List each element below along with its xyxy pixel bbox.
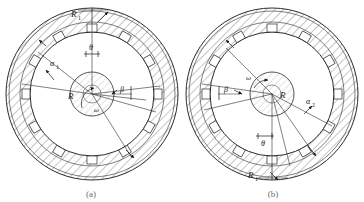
label-hub-radius-a: R bbox=[67, 91, 74, 101]
figure-container: R 1 θ α 1 R ω bbox=[0, 0, 364, 202]
label-outer-radius-sub-b: 1 bbox=[255, 176, 258, 182]
label-hub-radius-b: R bbox=[279, 90, 286, 100]
diagram-panel-b: R 1 θ α 2 R ω bbox=[182, 0, 364, 202]
label-omega-b: ω bbox=[246, 74, 251, 82]
label-beta-b: β bbox=[223, 85, 228, 94]
label-alpha-sub-a: 1 bbox=[56, 64, 59, 70]
caption-a: (a) bbox=[0, 189, 182, 199]
label-outer-radius-sub-a: 1 bbox=[78, 15, 81, 21]
label-beta-a: β bbox=[119, 85, 124, 94]
label-alpha-sub-b: 2 bbox=[312, 102, 315, 108]
diagram-panel-a: R 1 θ α 1 R ω bbox=[0, 0, 182, 202]
label-theta-a: θ bbox=[89, 43, 93, 52]
label-outer-radius-a: R bbox=[70, 9, 77, 19]
label-outer-radius-b: R bbox=[247, 170, 254, 180]
caption-b: (b) bbox=[182, 189, 364, 199]
label-omega-a: ω bbox=[94, 106, 99, 114]
label-theta-b: θ bbox=[261, 139, 265, 148]
